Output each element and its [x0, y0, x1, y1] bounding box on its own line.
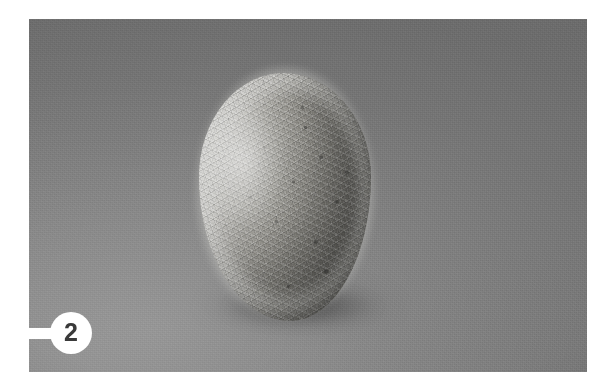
figure-photograph — [29, 19, 587, 372]
figure-container: 2 — [0, 0, 615, 390]
photo-vignette — [29, 19, 587, 372]
